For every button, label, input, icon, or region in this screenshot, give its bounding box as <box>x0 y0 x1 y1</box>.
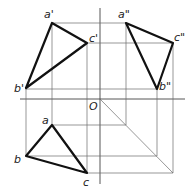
label-b-front: b' <box>14 82 24 95</box>
label-a-side: a" <box>118 8 130 21</box>
triangle-front-view <box>26 23 87 88</box>
label-c-top: c <box>83 176 89 189</box>
label-b-side: b" <box>159 80 171 93</box>
label-origin: O <box>89 100 98 113</box>
label-c-front: c' <box>89 32 98 45</box>
label-a-front: a' <box>44 8 54 21</box>
triangle-top-view <box>26 125 87 173</box>
label-c-side: c" <box>174 31 185 44</box>
y-axis-45deg <box>100 99 173 173</box>
label-b-top: b <box>14 153 21 166</box>
projection-diagram: a' c' b' a" c" b" O a b c <box>0 0 193 194</box>
label-a-top: a <box>42 114 49 127</box>
